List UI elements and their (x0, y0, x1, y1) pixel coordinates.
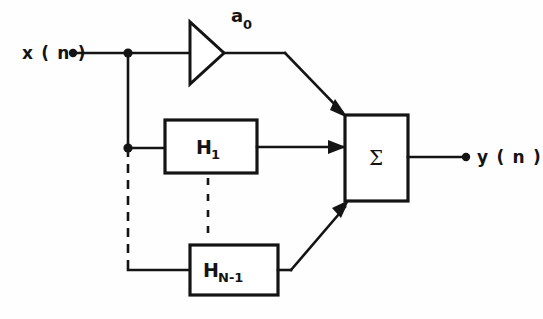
gain-amplifier-triangle (190, 22, 224, 84)
wire-hn1-out-diagonal (291, 207, 345, 270)
gain-label-symbol: a (231, 5, 243, 26)
signal-flow-diagram-canvas: a 0 H 1 H N-1 Σ x ( n ) y ( n ) (0, 0, 543, 319)
output-label: y ( n ) (477, 147, 542, 167)
summation-symbol: Σ (369, 146, 383, 170)
input-label: x ( n ) (22, 43, 87, 63)
gain-label-subscript: 0 (243, 17, 252, 32)
arrowhead-hn1-into-summer (332, 200, 349, 218)
block-diagram-figure: a 0 H 1 H N-1 Σ x ( n ) y ( n ) (0, 0, 543, 319)
arrowhead-h1-into-summer (328, 140, 346, 154)
hn1-label-subscript: N-1 (218, 270, 243, 285)
junction-dot-top (123, 48, 132, 57)
output-terminal-dot (462, 153, 470, 161)
hn1-label-symbol: H (203, 259, 219, 281)
h1-label-symbol: H (196, 136, 212, 158)
h1-label-subscript: 1 (211, 147, 220, 162)
